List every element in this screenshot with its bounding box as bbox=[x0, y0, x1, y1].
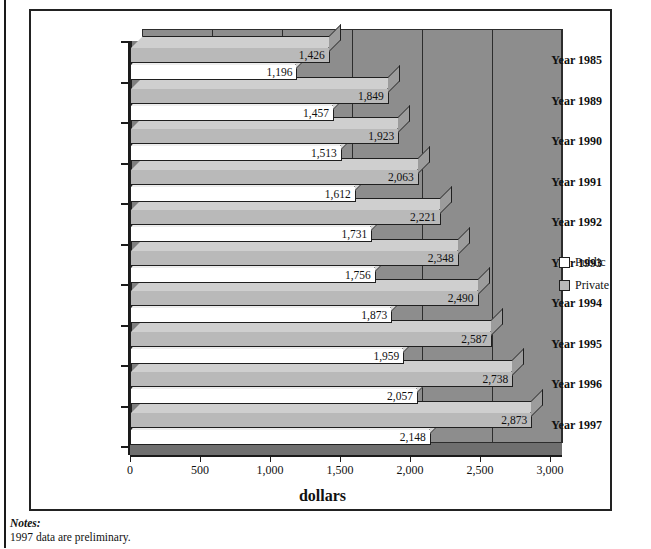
category-label-year-1992: Year 1992 bbox=[514, 215, 610, 230]
bar-value-label: 2,348 bbox=[428, 251, 454, 266]
bar-public-year-1995: 1,959 bbox=[130, 348, 404, 364]
bar-value-label: 1,426 bbox=[299, 48, 325, 63]
category-label-year-1995: Year 1995 bbox=[514, 337, 610, 352]
bar-value-label: 2,063 bbox=[388, 170, 414, 185]
bar-private-year-1992: 2,221 bbox=[130, 209, 441, 225]
x-tick-mark bbox=[270, 455, 271, 462]
x-tick-mark bbox=[340, 455, 341, 462]
bar-value-label: 1,513 bbox=[311, 146, 337, 161]
y-tick-mark bbox=[121, 284, 129, 286]
bar-top-face bbox=[131, 36, 341, 48]
y-tick-mark bbox=[121, 446, 129, 448]
x-tick-label: 2,000 bbox=[380, 463, 440, 478]
bar-value-label: 2,148 bbox=[400, 430, 426, 445]
bar-value-label: 1,959 bbox=[373, 349, 399, 364]
x-tick-label: 2,500 bbox=[450, 463, 510, 478]
legend-item-private[interactable]: Private bbox=[559, 278, 609, 293]
category-label-year-1989: Year 1989 bbox=[514, 94, 610, 109]
category-label-year-1990: Year 1990 bbox=[514, 134, 610, 149]
bar-value-label: 1,731 bbox=[341, 227, 367, 242]
x-tick-label: 1,000 bbox=[240, 463, 300, 478]
bar-private-year-1994: 2,490 bbox=[130, 290, 479, 306]
bar-value-label: 2,490 bbox=[448, 291, 474, 306]
notes-block: Notes: 1997 data are preliminary. bbox=[10, 516, 131, 544]
y-tick-mark bbox=[121, 406, 129, 408]
bar-public-year-1990: 1,513 bbox=[130, 145, 342, 161]
bar-value-label: 1,756 bbox=[345, 268, 371, 283]
y-tick-mark bbox=[121, 122, 129, 124]
chart-floor bbox=[130, 443, 562, 455]
bar-public-year-1994: 1,873 bbox=[130, 307, 392, 323]
bar-private-year-1996: 2,738 bbox=[130, 371, 513, 387]
x-axis-line bbox=[130, 455, 562, 457]
legend-swatch-icon bbox=[559, 280, 570, 291]
y-tick-mark bbox=[121, 244, 129, 246]
x-tick-mark bbox=[200, 455, 201, 462]
y-tick-mark bbox=[121, 41, 129, 43]
x-tick-mark bbox=[130, 455, 131, 462]
y-tick-mark bbox=[121, 365, 129, 367]
bar-public-year-1985: 1,196 bbox=[130, 64, 297, 80]
notes-line: 1997 data are preliminary. bbox=[10, 530, 131, 544]
category-label-year-1991: Year 1991 bbox=[514, 175, 610, 190]
x-tick-mark bbox=[480, 455, 481, 462]
bar-value-label: 1,923 bbox=[368, 129, 394, 144]
category-label-year-1985: Year 1985 bbox=[514, 53, 610, 68]
bar-value-label: 2,587 bbox=[461, 332, 487, 347]
legend-swatch-icon bbox=[559, 257, 570, 268]
bar-value-label: 2,873 bbox=[501, 413, 527, 428]
bar-value-label: 1,873 bbox=[361, 308, 387, 323]
y-tick-mark bbox=[121, 325, 129, 327]
y-tick-mark bbox=[121, 163, 129, 165]
bar-value-label: 2,221 bbox=[410, 210, 436, 225]
x-tick-label: 0 bbox=[100, 463, 160, 478]
x-tick-mark bbox=[550, 455, 551, 462]
bar-public-year-1997: 2,148 bbox=[130, 429, 431, 445]
category-label-year-1996: Year 1996 bbox=[514, 377, 610, 392]
bar-private-year-1985: 1,426 bbox=[130, 47, 330, 63]
bar-public-year-1993: 1,756 bbox=[130, 267, 376, 283]
x-tick-label: 1,500 bbox=[310, 463, 370, 478]
bar-public-year-1989: 1,457 bbox=[130, 105, 334, 121]
legend-item-public[interactable]: Public bbox=[559, 255, 609, 270]
bar-public-year-1996: 2,057 bbox=[130, 388, 418, 404]
y-tick-mark bbox=[121, 203, 129, 205]
y-tick-mark bbox=[121, 82, 129, 84]
notes-lines: 1997 data are preliminary. bbox=[10, 530, 131, 544]
bar-value-label: 1,457 bbox=[303, 106, 329, 121]
x-axis-title: dollars bbox=[31, 487, 614, 505]
bar-private-year-1991: 2,063 bbox=[130, 169, 419, 185]
notes-title: Notes: bbox=[10, 516, 131, 530]
bar-private-year-1990: 1,923 bbox=[130, 128, 399, 144]
bar-private-year-1989: 1,849 bbox=[130, 88, 389, 104]
legend-label: Private bbox=[575, 278, 609, 293]
bar-private-year-1993: 2,348 bbox=[130, 250, 459, 266]
bar-value-label: 2,738 bbox=[482, 372, 508, 387]
bar-private-year-1995: 2,587 bbox=[130, 331, 492, 347]
x-tick-mark bbox=[410, 455, 411, 462]
legend-label: Public bbox=[575, 255, 606, 270]
bar-public-year-1991: 1,612 bbox=[130, 186, 356, 202]
x-tick-label: 500 bbox=[170, 463, 230, 478]
plot-area: 1,4261,1961,8491,4571,9231,5132,0631,612… bbox=[130, 41, 550, 455]
x-tick-label: 3,000 bbox=[520, 463, 580, 478]
bar-value-label: 1,196 bbox=[267, 65, 293, 80]
bar-private-year-1997: 2,873 bbox=[130, 412, 532, 428]
chart-figure: 1,4261,1961,8491,4571,9231,5132,0631,612… bbox=[29, 9, 612, 511]
bar-value-label: 2,057 bbox=[387, 389, 413, 404]
bar-value-label: 1,612 bbox=[325, 187, 351, 202]
bar-public-year-1992: 1,731 bbox=[130, 226, 372, 242]
chart-legend: PublicPrivate bbox=[559, 255, 609, 301]
bar-value-label: 1,849 bbox=[358, 89, 384, 104]
